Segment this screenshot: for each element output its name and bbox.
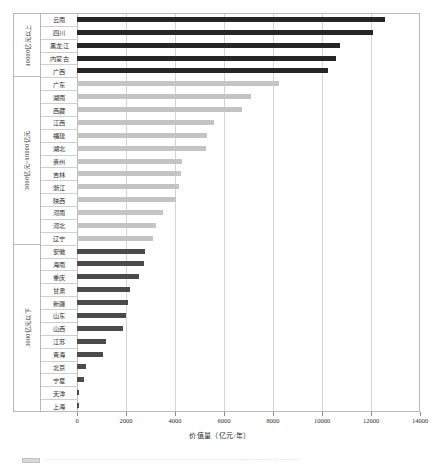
group-bracket: 3000亿元以下 (13, 245, 40, 412)
x-axis-tick (224, 412, 225, 416)
bar (77, 339, 106, 344)
category-label: 四川 (41, 27, 78, 40)
bar (77, 300, 128, 305)
group-label: 3000亿元以下 (23, 308, 32, 347)
bar (77, 390, 79, 395)
category-label: 西藏 (41, 104, 78, 117)
category-label: 黑龙江 (41, 40, 78, 53)
caption-rule-icon (22, 458, 40, 463)
x-axis-tick (371, 412, 372, 416)
category-label-column: 云南四川黑龙江内蒙古广西广东湖南西藏江西福建湖北贵州吉林浙江陕西河南河北辽宁安徽… (40, 13, 77, 412)
bar (77, 352, 103, 357)
gridline (322, 14, 323, 411)
category-label: 山西 (41, 323, 78, 336)
category-label: 新疆 (41, 297, 78, 310)
bar (77, 377, 84, 382)
bar (77, 223, 156, 228)
category-label: 江苏 (41, 336, 78, 349)
bar (77, 17, 385, 22)
category-label: 山东 (41, 310, 78, 323)
x-axis-tick-label: 6000 (218, 417, 231, 424)
x-axis-tick-label: 8000 (267, 417, 280, 424)
x-axis-tick (420, 412, 421, 416)
category-label: 浙江 (41, 181, 78, 194)
bar (77, 287, 130, 292)
bar (77, 184, 179, 189)
category-label: 上海 (41, 400, 78, 413)
category-label: 青海 (41, 349, 78, 362)
category-label: 广西 (41, 65, 78, 78)
category-label: 海南 (41, 259, 78, 272)
category-label: 贵州 (41, 156, 78, 169)
x-axis-tick (322, 412, 323, 416)
x-axis-tick-label: 4000 (169, 417, 182, 424)
x-axis-title: 价值量（亿元/年） (0, 430, 440, 440)
x-axis-tick (77, 412, 78, 416)
category-label: 辽宁 (41, 233, 78, 246)
category-label: 重庆 (41, 271, 78, 284)
x-axis-tick (273, 412, 274, 416)
bar (77, 159, 182, 164)
group-bracket: 10000亿元以上 (13, 13, 40, 77)
bar (77, 43, 340, 48)
group-label: 10000亿元以上 (23, 24, 32, 66)
bar (77, 146, 206, 151)
gridline (175, 14, 176, 411)
category-label: 江西 (41, 117, 78, 130)
category-label: 吉林 (41, 168, 78, 181)
bar (77, 326, 123, 331)
bar (77, 56, 336, 61)
bar (77, 274, 139, 279)
x-axis-tick (126, 412, 127, 416)
x-axis-tick-label: 0 (75, 417, 78, 424)
bar (77, 133, 207, 138)
caption-dots: ········································… (46, 457, 301, 463)
x-axis-tick-label: 12000 (363, 417, 379, 424)
category-label: 安徽 (41, 246, 78, 259)
group-bracket-column: 10000亿元以上3000亿元~10000亿元3000亿元以下 (13, 13, 40, 412)
x-axis-tick-label: 14000 (412, 417, 428, 424)
category-label: 甘肃 (41, 284, 78, 297)
bar (77, 107, 242, 112)
category-label: 天津 (41, 387, 78, 400)
group-label: 3000亿元~10000亿元 (23, 131, 32, 190)
bar (77, 210, 163, 215)
bar (77, 403, 79, 408)
bar (77, 364, 86, 369)
gridline (273, 14, 274, 411)
category-label: 内蒙古 (41, 53, 78, 66)
category-label: 河北 (41, 220, 78, 233)
bar (77, 197, 176, 202)
bar (77, 171, 181, 176)
category-label: 河南 (41, 207, 78, 220)
bar (77, 236, 153, 241)
gridline (224, 14, 225, 411)
category-label: 福建 (41, 130, 78, 143)
x-axis-tick-label: 2000 (120, 417, 133, 424)
bar-chart: 10000亿元以上3000亿元~10000亿元3000亿元以下 云南四川黑龙江内… (0, 0, 440, 466)
bar (77, 30, 373, 35)
bar (77, 313, 126, 318)
bar (77, 249, 145, 254)
category-label: 湖南 (41, 91, 78, 104)
x-axis-tick-label: 10000 (314, 417, 330, 424)
category-label: 湖北 (41, 143, 78, 156)
group-bracket: 3000亿元~10000亿元 (13, 77, 40, 244)
gridline (371, 14, 372, 411)
category-label: 陕西 (41, 194, 78, 207)
category-label: 广东 (41, 78, 78, 91)
category-label: 北京 (41, 362, 78, 375)
x-axis-tick (175, 412, 176, 416)
category-label: 云南 (41, 14, 78, 27)
bar (77, 94, 251, 99)
bar (77, 261, 144, 266)
bar (77, 120, 214, 125)
category-label: 宁夏 (41, 374, 78, 387)
bar (77, 81, 279, 86)
bar (77, 68, 328, 73)
